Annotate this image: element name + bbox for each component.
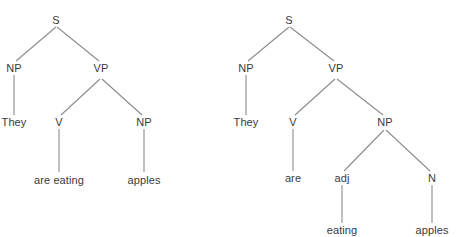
- syntax-tree-diagram: SNPVPTheyVNPare eatingapplesSNPVPTheyVNP…: [0, 0, 458, 237]
- tree-edge: [386, 130, 430, 171]
- tree-node-eating: eating: [327, 225, 358, 236]
- tree-node-v: V: [289, 117, 296, 128]
- tree-node-adj: adj: [335, 173, 350, 184]
- tree-edge: [290, 27, 334, 61]
- tree-node-n: N: [428, 173, 436, 184]
- tree-edge: [102, 79, 142, 115]
- tree-tree-left-edges: [14, 27, 144, 172]
- tree-node-apples: apples: [415, 225, 448, 236]
- tree-edge: [57, 27, 99, 61]
- tree-node-they: They: [234, 117, 259, 128]
- tree-node-vp: VP: [94, 63, 109, 74]
- tree-node-s: S: [52, 15, 59, 26]
- tree-node-np: NP: [6, 63, 21, 74]
- tree-edge: [16, 27, 56, 61]
- tree-edge: [248, 27, 289, 61]
- tree-node-are: are: [285, 173, 301, 184]
- tree-node-np: NP: [136, 117, 151, 128]
- tree-edge: [295, 79, 335, 115]
- tree-node-they: They: [2, 117, 27, 128]
- tree-node-s: S: [285, 15, 292, 26]
- tree-edge: [61, 79, 100, 115]
- tree-node-np: NP: [238, 63, 253, 74]
- tree-edge: [344, 130, 384, 171]
- tree-tree-right-edges: [246, 27, 432, 223]
- tree-node-np: NP: [377, 117, 392, 128]
- tree-node-v: V: [55, 117, 62, 128]
- tree-node-apples: apples: [127, 175, 160, 186]
- tree-node-vp: VP: [329, 63, 344, 74]
- tree-edge: [337, 79, 383, 115]
- tree-node-are-eating: are eating: [34, 175, 84, 186]
